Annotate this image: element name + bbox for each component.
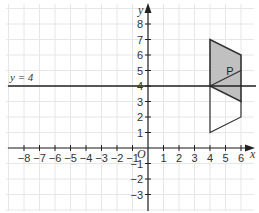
x-tick-label: 3 <box>191 152 197 164</box>
y-tick-label: −3 <box>130 189 143 201</box>
y-tick-label: 6 <box>137 49 143 61</box>
x-tick-label: −3 <box>95 152 108 164</box>
y-tick-label: 5 <box>137 65 143 77</box>
x-tick-label: −6 <box>49 152 62 164</box>
y-axis-label: y <box>137 3 144 17</box>
coordinate-diagram: y = 4 −8−7−6−5−4−3−2−112345687654321−1−2… <box>0 0 259 213</box>
x-tick-label: 5 <box>222 152 228 164</box>
y-tick-label: 4 <box>137 80 143 92</box>
x-tick-label: −2 <box>111 152 124 164</box>
shape-p-label: P <box>226 65 233 77</box>
y-tick-label: 8 <box>137 18 143 30</box>
x-axis-label: x <box>249 147 256 161</box>
x-tick-label: −7 <box>33 152 46 164</box>
y-tick-label: 1 <box>137 127 143 139</box>
y-tick-label: −2 <box>130 173 143 185</box>
x-tick-label: −8 <box>18 152 31 164</box>
x-tick-label: −5 <box>64 152 77 164</box>
x-tick-label: 6 <box>238 152 244 164</box>
x-tick-label: 2 <box>176 152 182 164</box>
y-tick-label: 3 <box>137 96 143 108</box>
y-tick-label: 2 <box>137 111 143 123</box>
x-tick-label: 1 <box>160 152 166 164</box>
x-tick-label: −4 <box>80 152 93 164</box>
mirror-line-label: y = 4 <box>9 71 34 83</box>
origin-label: O <box>137 147 146 161</box>
x-tick-label: 4 <box>207 152 213 164</box>
y-tick-label: 7 <box>137 34 143 46</box>
